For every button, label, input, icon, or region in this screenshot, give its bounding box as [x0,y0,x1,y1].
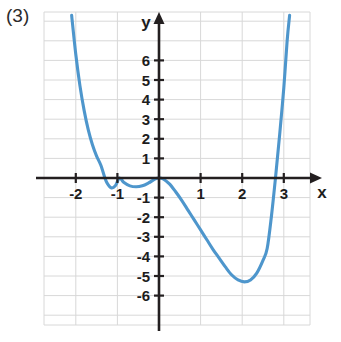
y-axis-label: y [141,13,151,32]
y-tick-label: -4 [137,248,151,265]
y-tick-label: -5 [137,268,150,285]
x-tick-label: -1 [111,185,124,202]
y-tick-label: 6 [142,52,150,69]
x-axis [36,173,322,184]
y-tick-label: 5 [142,72,150,89]
x-axis-label: x [317,183,327,202]
coordinate-plot: -2-1123 654321-1-2-3-4-5-6 x y [0,0,341,342]
y-tick-label: -3 [137,228,150,245]
horizontal-gridlines [44,12,310,325]
x-tick-label: 1 [196,185,204,202]
y-tick-label: -2 [137,209,150,226]
x-tick-label: 2 [238,185,246,202]
y-tick-label: -6 [137,287,150,304]
y-tick-label: -1 [137,189,150,206]
function-curve [72,15,290,282]
x-tick-label: -2 [69,185,82,202]
vertical-gridlines [44,12,310,325]
figure-container: (3) -2-1123 654321-1-2-3-4-5-6 x y [0,0,341,342]
y-tick-label: 2 [142,130,150,147]
y-tick-label: 4 [142,91,151,108]
y-tick-label: 1 [142,150,150,167]
y-tick-label: 3 [142,111,150,128]
x-tick-label: 3 [280,185,288,202]
